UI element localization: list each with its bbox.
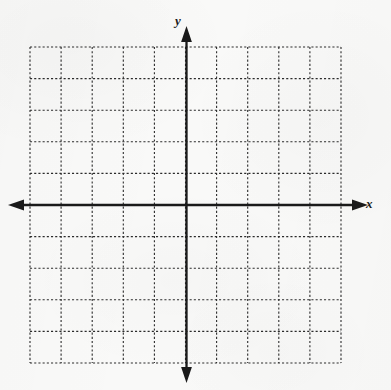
coordinate-plane-svg [0,0,391,390]
x-axis-label: x [366,197,373,210]
x-axis-arrow-left [8,200,24,211]
y-axis-label: y [175,14,181,27]
axes [8,26,368,383]
y-axis-arrow-up [181,26,192,42]
coordinate-grid-figure: y x [0,0,391,390]
y-axis-arrow-down [181,367,192,383]
